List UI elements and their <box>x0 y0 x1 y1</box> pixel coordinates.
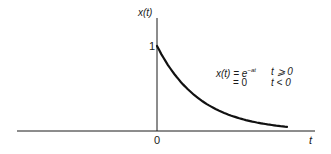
x-axis-label: t <box>309 135 312 146</box>
equation-line-2: = 0 t < 0 <box>233 78 247 88</box>
y-axis-label: x(t) <box>138 8 152 18</box>
y-tick-one: 1 <box>149 41 155 52</box>
eq1-exponent: −at <box>247 67 256 73</box>
eq2-condition: t < 0 <box>271 78 291 88</box>
decay-curve <box>157 46 287 127</box>
eq1-condition: t ⩾ 0 <box>271 67 293 77</box>
eq2-lhs: = 0 <box>233 77 247 88</box>
origin-label: 0 <box>154 135 160 146</box>
